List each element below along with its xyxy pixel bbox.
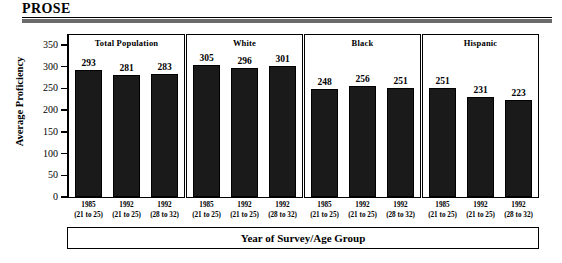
x-tick-year: 1992 (259, 201, 306, 211)
x-axis-tick-label: 1992(28 to 32) (141, 201, 188, 220)
bar[interactable] (269, 66, 296, 197)
y-axis-tick-label: 150 (24, 127, 58, 137)
bar[interactable] (429, 88, 456, 197)
y-axis-tick-label: 0 (24, 192, 58, 202)
bar[interactable] (505, 100, 532, 197)
x-tick-age-group: (28 to 32) (377, 211, 424, 221)
x-axis-tick-label: 1992(28 to 32) (259, 201, 306, 220)
panel-title: Total Population (69, 38, 184, 48)
y-axis-label: Average Proficiency (14, 37, 25, 167)
y-axis-tick (61, 131, 68, 132)
bar-value-label: 281 (109, 63, 144, 73)
bar-value-label: 305 (189, 53, 224, 63)
y-axis-tick-label: 50 (24, 170, 58, 180)
x-axis-label: Year of Survey/Age Group (68, 228, 538, 248)
bar-chart: 050100150200250300350 Average Proficienc… (0, 0, 562, 263)
panel-title: Hispanic (423, 38, 538, 48)
bar[interactable] (75, 70, 102, 197)
x-tick-age-group: (28 to 32) (259, 211, 306, 221)
bar[interactable] (151, 74, 178, 197)
panel-title: Black (305, 38, 420, 48)
y-axis-tick (61, 44, 68, 45)
bar-value-label: 301 (265, 54, 300, 64)
bar-value-label: 251 (383, 76, 418, 86)
x-tick-year: 1992 (495, 201, 542, 211)
x-axis-label-box: Year of Survey/Age Group (67, 227, 539, 249)
x-tick-age-group: (28 to 32) (141, 211, 188, 221)
y-axis-tick (61, 88, 68, 89)
y-axis-tick (61, 175, 68, 176)
y-axis-tick-label: 300 (24, 62, 58, 72)
y-axis-tick-label: 350 (24, 40, 58, 50)
bar-value-label: 296 (227, 56, 262, 66)
bar-value-label: 283 (147, 62, 182, 72)
bar-value-label: 248 (307, 77, 342, 87)
y-axis-tick (61, 109, 68, 110)
y-axis-tick-label: 250 (24, 83, 58, 93)
bar[interactable] (311, 89, 338, 197)
bar[interactable] (467, 97, 494, 197)
bar[interactable] (231, 68, 258, 197)
panel-title: White (187, 38, 302, 48)
y-axis-tick (61, 153, 68, 154)
x-tick-year: 1992 (141, 201, 188, 211)
y-axis-tick-label: 100 (24, 149, 58, 159)
bar[interactable] (113, 75, 140, 197)
bar-value-label: 256 (345, 74, 380, 84)
bar[interactable] (387, 88, 414, 197)
y-axis-tick (61, 196, 68, 197)
x-axis-tick-label: 1992(28 to 32) (377, 201, 424, 220)
x-axis-tick-label: 1992(28 to 32) (495, 201, 542, 220)
bar-value-label: 251 (425, 76, 460, 86)
bar[interactable] (349, 86, 376, 197)
y-axis-tick-label: 200 (24, 105, 58, 115)
bar-value-label: 223 (501, 88, 536, 98)
x-tick-year: 1992 (377, 201, 424, 211)
y-axis-tick-labels: 050100150200250300350 (20, 0, 58, 263)
y-axis-tick (61, 66, 68, 67)
bar-value-label: 231 (463, 85, 498, 95)
x-tick-age-group: (28 to 32) (495, 211, 542, 221)
bar[interactable] (193, 65, 220, 197)
bar-value-label: 293 (71, 58, 106, 68)
